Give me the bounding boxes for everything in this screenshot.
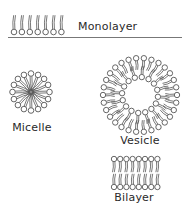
bilayer-label: Bilayer bbox=[114, 191, 154, 204]
monolayer-structure bbox=[11, 15, 64, 35]
micelle-structure bbox=[10, 71, 53, 114]
vesicle-structure bbox=[100, 56, 179, 135]
monolayer-label: Monolayer bbox=[78, 20, 137, 33]
bilayer-structure bbox=[111, 156, 160, 189]
vesicle-label: Vesicle bbox=[120, 134, 160, 147]
micelle-label: Micelle bbox=[12, 121, 52, 134]
